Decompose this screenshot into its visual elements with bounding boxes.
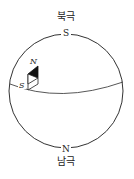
compass-needle (28, 66, 38, 90)
globe-diagram: S N N S (0, 0, 134, 179)
globe-bottom-marker: N (62, 144, 70, 154)
compass-south-label: S (19, 81, 25, 90)
globe-top-marker: S (63, 28, 69, 38)
globe-outline (9, 34, 123, 148)
equator-line (10, 82, 123, 94)
compass-north-label: N (29, 57, 38, 66)
south-pole-label: 남극 (57, 157, 75, 167)
